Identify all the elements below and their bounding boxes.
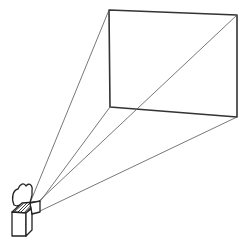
- projection-rays: [30, 10, 237, 211]
- diagram-canvas: [0, 0, 244, 241]
- ray-top-left: [30, 10, 109, 203]
- projector-body-front: [12, 212, 26, 236]
- projection-screen: [109, 10, 237, 117]
- film-projector-icon: [12, 184, 40, 236]
- projection-diagram: [0, 0, 244, 241]
- ray-bottom-right: [40, 117, 237, 211]
- ray-top-right: [38, 15, 237, 202]
- ray-bottom-left: [36, 107, 110, 207]
